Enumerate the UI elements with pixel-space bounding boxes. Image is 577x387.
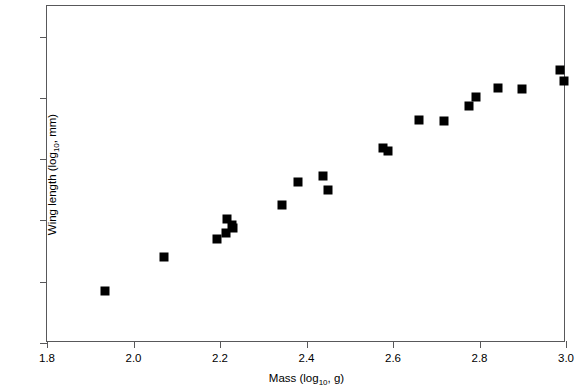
y-axis-title: Wing length (log10, mm): [44, 6, 60, 343]
data-point: [559, 77, 568, 86]
x-tick-mark: [134, 341, 135, 348]
data-point: [100, 286, 109, 295]
subscript: 10: [52, 143, 61, 152]
data-point: [318, 172, 327, 181]
x-tick-label: 2.6: [385, 353, 401, 365]
y-tick-mark: [40, 343, 47, 344]
x-tick-label: 2.8: [472, 353, 488, 365]
data-point: [212, 235, 221, 244]
x-tick-label: 3.0: [558, 353, 574, 365]
x-axis-title: Mass (log10, g): [47, 372, 566, 386]
data-point: [471, 92, 480, 101]
data-point: [160, 253, 169, 262]
x-tick-label: 2.0: [126, 353, 142, 365]
data-point: [440, 117, 449, 126]
plot-area: 1.92.02.12.22.32.4 1.82.02.22.42.62.83.0…: [46, 5, 565, 342]
data-point: [278, 201, 287, 210]
x-tick-mark: [220, 341, 221, 348]
x-tick-mark: [480, 341, 481, 348]
data-point: [294, 178, 303, 187]
data-point: [414, 115, 423, 124]
x-tick-mark: [566, 341, 567, 348]
data-point: [555, 66, 564, 75]
x-tick-label: 2.4: [299, 353, 315, 365]
data-point: [494, 84, 503, 93]
data-point: [465, 102, 474, 111]
data-point: [323, 185, 332, 194]
x-tick-mark: [307, 341, 308, 348]
x-tick-mark: [393, 341, 394, 348]
x-tick-label: 2.2: [212, 353, 228, 365]
data-point: [518, 84, 527, 93]
data-point: [383, 147, 392, 156]
x-tick-label: 1.8: [39, 353, 55, 365]
data-point: [228, 223, 237, 232]
subscript: 10: [319, 378, 328, 387]
